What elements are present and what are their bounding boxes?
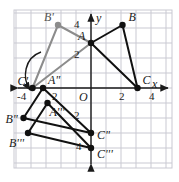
point-label-C3: C'''	[97, 148, 113, 160]
y-tick--2: 2	[74, 110, 80, 121]
point-dot-C	[134, 85, 140, 91]
point-label-B2: B"	[6, 113, 18, 125]
y-tick-2: 2	[74, 49, 80, 60]
origin-label: O	[79, 91, 88, 103]
point-dot-A	[88, 40, 94, 46]
point-label-C: C	[143, 74, 151, 86]
x-tick-2: 2	[119, 91, 125, 102]
point-label-A: A	[78, 30, 85, 42]
plot-panel	[14, 10, 172, 168]
point-dot-C3	[88, 145, 94, 151]
point-label-Aprime: A"	[48, 74, 60, 86]
point-label-A3: A'''	[50, 106, 65, 118]
y-tick-4: 4	[74, 19, 80, 30]
y-tick--4: 4	[76, 141, 82, 152]
point-label-B: B	[129, 11, 136, 23]
point-dot-Aprime	[40, 85, 46, 91]
point-dot-Bprime	[55, 22, 61, 28]
x-axis-label: x	[152, 78, 157, 90]
point-dot-B2	[20, 115, 26, 121]
point-dot-C2	[88, 130, 94, 136]
point-label-C2: C"	[97, 129, 110, 141]
point-dot-B	[119, 22, 125, 28]
x-tick-4: 4	[149, 91, 155, 102]
point-label-Cprime: C'	[18, 75, 29, 87]
point-dot-B3	[25, 130, 31, 136]
point-dot-Cprime	[29, 85, 35, 91]
coordinate-plane-figure: ABCA"B'C'A'''B"B'''C"C'''xyO-42442242	[0, 0, 179, 182]
point-label-B3: B'''	[9, 137, 24, 149]
point-label-Bprime: B'	[44, 11, 54, 23]
y-axis-label: y	[96, 12, 101, 24]
x-tick--2: 2	[52, 91, 58, 102]
x-tick--4: -4	[17, 91, 26, 102]
